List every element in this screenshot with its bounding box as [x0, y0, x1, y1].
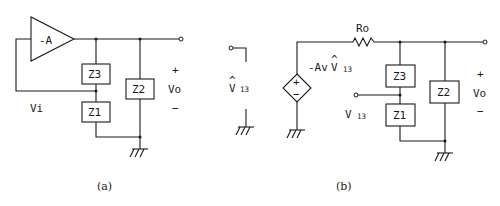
z2-label: Z2 — [132, 83, 145, 96]
amplifier-label: -A — [39, 34, 53, 47]
figure-a: -A Z3 Z1 Z2 Vi + Vo − — [16, 17, 183, 193]
z1-label: Z1 — [88, 106, 101, 119]
ground-icon — [435, 153, 453, 161]
vo-minus: − — [477, 105, 484, 118]
probe-sub: 13 — [240, 85, 249, 94]
circuit-figure: -A Z3 Z1 Z2 Vi + Vo − — [0, 0, 500, 206]
amplifier-triangle — [31, 17, 74, 61]
caption-b: (b) — [336, 180, 352, 193]
z2-label: Z2 — [437, 86, 450, 99]
ground-icon — [287, 130, 305, 138]
ground-icon — [130, 149, 148, 157]
vo-label: Vo — [168, 83, 181, 96]
node-terminal — [354, 93, 358, 97]
probe-terminal — [229, 46, 233, 50]
source-sub: 13 — [343, 65, 352, 74]
node-sub: 13 — [357, 112, 366, 121]
caption-a: (a) — [97, 180, 112, 193]
figure-b: ^ V 13 + − -Av ^ V 13 Ro — [229, 22, 487, 193]
resistor-ro — [353, 38, 374, 46]
probe-label: V — [229, 82, 236, 95]
z3-label: Z3 — [393, 70, 406, 83]
ro-label: Ro — [356, 22, 369, 35]
vi-label: Vi — [30, 102, 43, 115]
source-minus: − — [293, 88, 300, 101]
z1-label: Z1 — [393, 109, 406, 122]
z1-ground-wire — [96, 122, 140, 137]
output-terminal — [179, 37, 183, 41]
vo-label: Vo — [473, 87, 486, 100]
vo-plus: + — [172, 64, 179, 77]
vo-plus: + — [477, 68, 484, 81]
source-v: V — [331, 61, 338, 74]
output-terminal — [483, 40, 487, 44]
node-label: V — [345, 108, 352, 121]
ground-icon — [236, 127, 254, 135]
source-gain-label: -Av — [308, 61, 328, 74]
z3-label: Z3 — [88, 68, 101, 81]
vo-minus: − — [172, 102, 179, 115]
